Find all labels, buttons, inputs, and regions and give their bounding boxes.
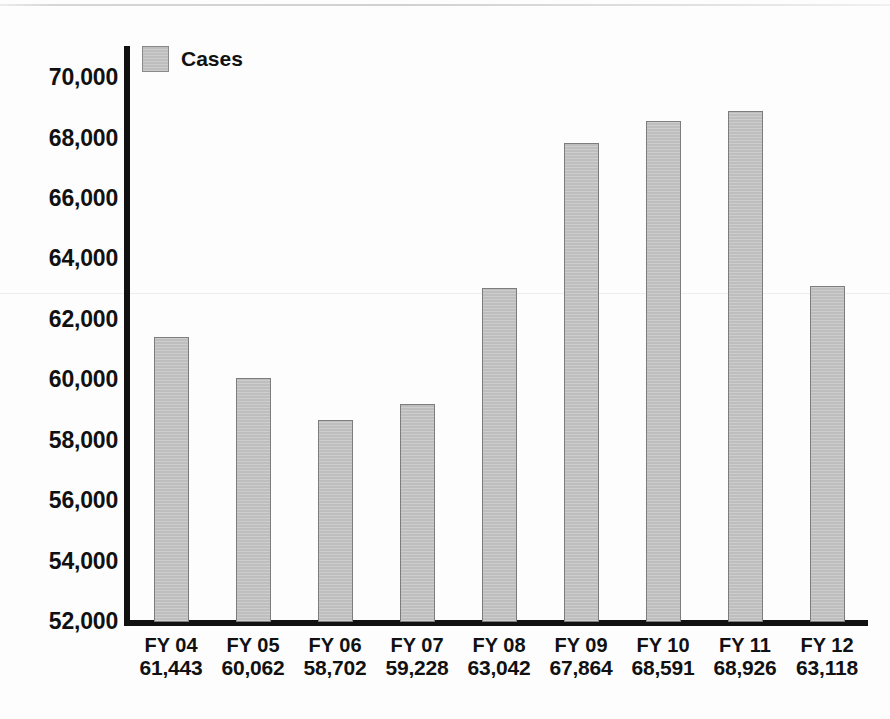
x-axis-label-group: FY 0560,062 — [212, 634, 294, 680]
y-axis-tick-label: 66,000 — [2, 187, 118, 210]
x-axis-value-label: 67,864 — [540, 656, 622, 680]
x-axis-value-label: 63,118 — [786, 656, 868, 680]
x-axis-label-group: FY 0759,228 — [376, 634, 458, 680]
x-axis-category-label: FY 09 — [540, 634, 622, 656]
x-axis-category-label: FY 06 — [294, 634, 376, 656]
bar — [236, 378, 271, 622]
x-axis-category-label: FY 05 — [212, 634, 294, 656]
x-axis-value-label: 60,062 — [212, 656, 294, 680]
bar — [728, 111, 763, 622]
x-axis-label-group: FY 0967,864 — [540, 634, 622, 680]
legend-swatch-cases — [142, 46, 169, 72]
x-axis-category-label: FY 12 — [786, 634, 868, 656]
x-axis-label-group: FY 1068,591 — [622, 634, 704, 680]
y-axis-tick-label: 70,000 — [2, 66, 118, 89]
bar — [810, 286, 845, 622]
x-axis-value-label: 63,042 — [458, 656, 540, 680]
bar — [400, 404, 435, 622]
x-axis-labels: FY 0461,443FY 0560,062FY 0658,702FY 0759… — [130, 634, 868, 704]
bar — [482, 288, 517, 622]
bar — [154, 337, 189, 622]
x-axis-category-label: FY 04 — [130, 634, 212, 656]
x-axis-label-group: FY 0658,702 — [294, 634, 376, 680]
x-axis-category-label: FY 08 — [458, 634, 540, 656]
x-axis-label-group: FY 0863,042 — [458, 634, 540, 680]
chart-page: 52,00054,00056,00058,00060,00062,00064,0… — [0, 0, 890, 719]
x-axis-label-group: FY 1263,118 — [786, 634, 868, 680]
x-axis-value-label: 61,443 — [130, 656, 212, 680]
y-axis-tick-label: 64,000 — [2, 247, 118, 270]
y-axis-tick-label: 52,000 — [2, 610, 118, 633]
bar — [646, 121, 681, 622]
x-axis-label-group: FY 1168,926 — [704, 634, 786, 680]
bar-chart: 52,00054,00056,00058,00060,00062,00064,0… — [0, 0, 890, 719]
y-axis-tick-label: 56,000 — [2, 489, 118, 512]
x-axis-category-label: FY 07 — [376, 634, 458, 656]
y-axis-tick-label: 62,000 — [2, 308, 118, 331]
x-axis-value-label: 59,228 — [376, 656, 458, 680]
x-axis-label-group: FY 0461,443 — [130, 634, 212, 680]
bars-layer — [130, 48, 868, 622]
legend-label-cases: Cases — [181, 47, 243, 71]
x-axis-value-label: 58,702 — [294, 656, 376, 680]
bar — [318, 420, 353, 622]
y-axis-tick-label: 54,000 — [2, 550, 118, 573]
legend: Cases — [142, 46, 243, 72]
y-axis-tick-label: 60,000 — [2, 368, 118, 391]
bar — [564, 143, 599, 622]
x-axis-category-label: FY 10 — [622, 634, 704, 656]
y-axis-tick-label: 68,000 — [2, 127, 118, 150]
x-axis-value-label: 68,591 — [622, 656, 704, 680]
x-axis-value-label: 68,926 — [704, 656, 786, 680]
y-axis-tick-label: 58,000 — [2, 429, 118, 452]
x-axis-category-label: FY 11 — [704, 634, 786, 656]
